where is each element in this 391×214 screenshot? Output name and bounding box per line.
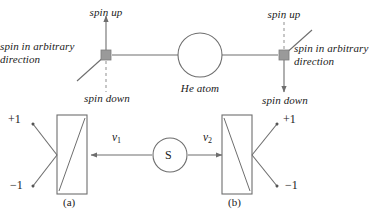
- analyzer-a-outcome-arrows: [33, 124, 57, 186]
- analyzer-b-minus-arrow: [252, 155, 277, 186]
- velocity-v2-subscript: 2: [208, 136, 212, 145]
- left-node-marker: [101, 50, 111, 60]
- right-arbitrary-direction-label: spin in arbitrary direction: [294, 42, 390, 68]
- analyzer-a: [57, 115, 87, 194]
- right-arbitrary-direction-line2: direction: [294, 55, 334, 67]
- velocity-v1-subscript: 1: [117, 136, 121, 145]
- right-spin-down-label: spin down: [241, 94, 329, 107]
- analyzer-b-diagonal: [224, 118, 250, 191]
- analyzer-a-diagonal: [59, 118, 85, 191]
- analyzer-a-plus-arrow: [33, 124, 57, 155]
- left-arbitrary-direction-line2: direction: [0, 53, 74, 66]
- analyzer-b-caption: (b): [228, 196, 241, 208]
- analyzer-a-caption: (a): [63, 196, 75, 208]
- analyzer-a-minus-arrow: [33, 155, 57, 186]
- he-atom-circle: [178, 33, 222, 77]
- right-arbitrary-direction-line1: spin in arbitrary: [294, 42, 368, 54]
- analyzer-b-minus-one-label: −1: [285, 178, 298, 193]
- right-spin-up-label: spin up: [244, 8, 324, 21]
- velocity-v2-label: v2: [203, 131, 212, 143]
- analyzer-b-plus-one-label: +1: [283, 112, 296, 127]
- left-arbitrary-direction-label: spin in arbitrary direction: [0, 40, 74, 66]
- analyzer-b-plus-arrow: [252, 124, 277, 155]
- figure-vector-layer: [0, 0, 391, 214]
- he-atom-label: He atom: [166, 82, 234, 95]
- left-spin-up-label: spin up: [66, 6, 146, 19]
- analyzer-b: [222, 115, 252, 194]
- physics-figure: spin up spin down spin in arbitrary dire…: [0, 0, 391, 214]
- left-detector-node: [77, 16, 111, 92]
- analyzer-a-plus-one-label: +1: [8, 112, 21, 127]
- left-spin-down-label: spin down: [63, 92, 151, 105]
- source-label: S: [165, 148, 172, 163]
- right-node-marker: [279, 50, 289, 60]
- left-arbitrary-direction-line1: spin in arbitrary: [0, 40, 74, 52]
- velocity-v1-label: v1: [112, 131, 121, 143]
- analyzer-a-minus-one-label: −1: [10, 178, 23, 193]
- analyzer-b-outcome-arrows: [252, 124, 277, 186]
